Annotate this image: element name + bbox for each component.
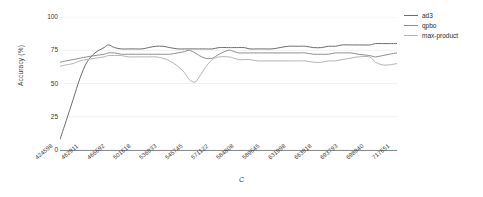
- series-lines: [60, 44, 397, 140]
- legend-label-ad3: ad3: [422, 12, 433, 19]
- gridlines: [60, 17, 397, 150]
- x-axis-title: C: [0, 176, 483, 183]
- legend-label-qpbo: qpbo: [422, 22, 436, 29]
- legend-item-qpbo[interactable]: qpbo: [404, 21, 483, 30]
- y-axis-ticks: 0255075100: [30, 0, 58, 160]
- legend-swatch-qpbo: [404, 25, 418, 26]
- y-axis-tick-25: 25: [32, 113, 58, 120]
- legend-item-ad3[interactable]: ad3: [404, 11, 483, 20]
- y-axis-title: Accuracy (%): [17, 30, 24, 102]
- series-line-qpbo: [60, 50, 397, 62]
- y-axis-tick-75: 75: [32, 46, 58, 53]
- series-line-max-product: [60, 55, 397, 82]
- legend-swatch-max-product: [404, 35, 418, 36]
- y-axis-tick-50: 50: [32, 80, 58, 87]
- legend-label-max-product: max-product: [422, 32, 458, 39]
- legend-swatch-ad3: [404, 15, 418, 16]
- series-line-ad3: [60, 44, 397, 140]
- plot-area: [60, 17, 397, 150]
- x-axis-tick-labels: 4245984629114666925016185369335457455711…: [0, 150, 483, 190]
- chart-container: Accuracy (%) 0255075100 4245984629114666…: [0, 0, 483, 197]
- legend-item-max-product[interactable]: max-product: [404, 31, 483, 40]
- plot-svg: [60, 17, 397, 150]
- y-axis-tick-100: 100: [32, 13, 58, 20]
- chart-legend: ad3qpbomax-product: [404, 11, 483, 41]
